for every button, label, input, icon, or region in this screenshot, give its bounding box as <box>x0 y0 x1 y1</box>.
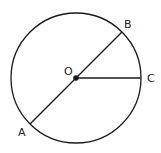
label-A: A <box>18 126 26 139</box>
circle-diagram: O A B C <box>0 0 161 153</box>
label-C: C <box>147 72 155 85</box>
label-O: O <box>64 65 73 78</box>
center-point-O <box>73 75 79 81</box>
label-B: B <box>124 18 132 31</box>
